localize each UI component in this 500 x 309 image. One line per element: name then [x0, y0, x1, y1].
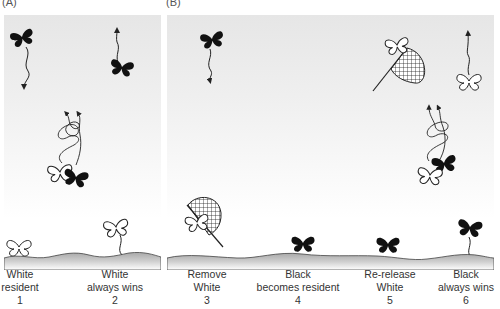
black-butterfly-icon [291, 237, 314, 252]
white-butterfly-icon [7, 240, 31, 256]
step-1-number: 1 [1, 294, 38, 307]
black-butterfly-icon [200, 31, 225, 50]
step-5-line1: Re-release [364, 268, 415, 281]
step-2-number: 2 [87, 294, 143, 307]
step-6-number: 6 [438, 294, 494, 307]
flight-path-up-icon [467, 33, 469, 75]
step-4-line2: becomes resident [257, 281, 340, 294]
step-6-line1: Black [438, 268, 494, 281]
step-3-number: 3 [187, 294, 226, 307]
spiral-flight-path-icon [58, 113, 81, 165]
step-5-number: 5 [364, 294, 415, 307]
white-butterfly-icon [103, 219, 129, 238]
spiral-flight-path-icon [427, 107, 448, 161]
panel-a [4, 15, 161, 270]
black-butterfly-icon [376, 238, 399, 253]
panel-a-label: (A) [2, 0, 17, 8]
step-3-line1: Remove [187, 268, 226, 281]
black-butterfly-icon [457, 219, 483, 238]
step-6-line2: always wins [438, 281, 494, 294]
panel-b-label: (B) [166, 0, 181, 8]
step-2-line1: White [87, 268, 143, 281]
step-caption-5: Re-release White 5 [364, 268, 415, 307]
black-butterfly-icon [109, 59, 134, 78]
flight-path-up-icon [117, 30, 119, 62]
step-1-line1: White [1, 268, 38, 281]
step-3-line2: White [187, 281, 226, 294]
step-4-number: 4 [257, 294, 340, 307]
step-4-line1: Black [257, 268, 340, 281]
step-caption-4: Black becomes resident 4 [257, 268, 340, 307]
step-caption-6: Black always wins 6 [438, 268, 494, 307]
step-caption-1: White resident 1 [1, 268, 38, 307]
white-butterfly-icon [457, 74, 481, 90]
white-butterfly-icon [417, 167, 443, 185]
step-5-line2: White [364, 281, 415, 294]
step-caption-2: White always wins 2 [87, 268, 143, 307]
butterfly-net-icon [373, 48, 425, 91]
flight-path-down-icon [209, 49, 212, 81]
step-caption-3: Remove White 3 [187, 268, 226, 307]
step-1-line2: resident [1, 281, 38, 294]
panel-b [167, 15, 494, 270]
flight-path-down-icon [24, 47, 29, 87]
step-2-line2: always wins [87, 281, 143, 294]
black-butterfly-icon [9, 28, 35, 48]
